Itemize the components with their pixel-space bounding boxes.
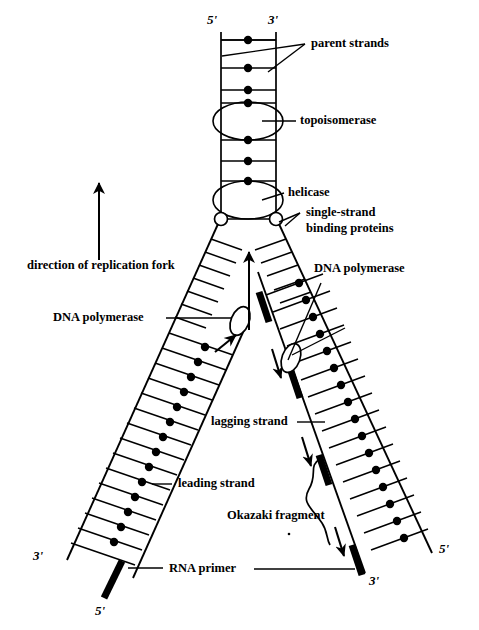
label-direction-of-replication-fork: direction of replication fork	[27, 258, 175, 272]
leader-ssb-b	[285, 213, 300, 226]
leading-base-pair-dots	[110, 343, 209, 546]
label-dna-polymerase-lagging: DNA polymerase	[314, 261, 405, 275]
rna-primer-bar-leading	[104, 561, 122, 598]
rna-primer-bars-lagging	[259, 292, 362, 575]
leading-template-backbone	[67, 224, 218, 560]
ssb-circle-right	[270, 213, 283, 226]
figure-canvas: 5' 3' parent strands topoisomerase helic…	[0, 0, 479, 630]
leader-helicase	[262, 193, 284, 200]
rna-primer-bar-3	[319, 455, 329, 485]
label-parent-3-prime: 3'	[268, 13, 278, 28]
rna-primer-bar-2	[290, 368, 300, 398]
label-ssb-line2: binding proteins	[306, 221, 394, 237]
label-okazaki-fragment: Okazaki fragment	[227, 508, 325, 522]
parent-duplex	[221, 32, 276, 219]
rna-primer-bar-4	[352, 545, 362, 575]
label-left-arm-5-prime: 5'	[95, 604, 105, 619]
ssb-circle-left	[215, 213, 228, 226]
label-ssb-line1: single-strand	[306, 205, 394, 221]
label-parent-5-prime: 5'	[207, 13, 217, 28]
lagging-synthesis-arrows	[272, 349, 344, 556]
lagging-base-pair-dots	[295, 279, 408, 542]
label-right-arm-5-prime: 5'	[439, 542, 449, 557]
label-leading-strand: leading strand	[178, 476, 255, 490]
label-rna-primer: RNA primer	[169, 561, 236, 575]
leading-base-pair-rungs	[71, 333, 233, 565]
label-right-arm-3-prime: 3'	[369, 574, 379, 589]
label-topoisomerase: topoisomerase	[300, 113, 376, 127]
leading-strand-arm	[67, 224, 244, 578]
label-helicase: helicase	[288, 185, 330, 199]
dna-polymerase-lagging-ellipse	[277, 341, 304, 375]
leading-template-ticks	[175, 239, 242, 328]
label-lagging-strand: lagging strand	[211, 414, 288, 428]
parent-base-pair-dots	[244, 36, 252, 185]
label-dna-polymerase-leading: DNA polymerase	[53, 310, 144, 324]
label-single-strand-binding-proteins: single-strand binding proteins	[306, 205, 394, 236]
label-left-arm-3-prime: 3'	[33, 549, 43, 564]
leading-new-strand-backbone	[133, 330, 244, 578]
leading-synthesis-arrow	[215, 335, 236, 352]
stray-dot	[288, 533, 291, 536]
label-parent-strands: parent strands	[311, 36, 389, 50]
lagging-template-ticks	[255, 239, 311, 303]
